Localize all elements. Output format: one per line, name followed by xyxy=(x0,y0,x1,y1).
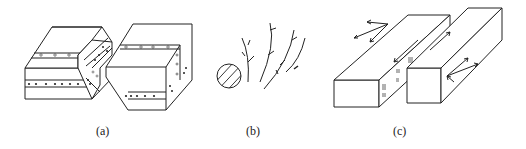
panel-b-label: (b) xyxy=(246,124,260,139)
panel-c-label: (c) xyxy=(393,124,406,139)
panel-c: (c) xyxy=(330,0,526,149)
panel-c-drawing xyxy=(330,0,526,149)
panel-a-label: (a) xyxy=(96,124,109,139)
panel-b: (b) xyxy=(190,0,340,149)
panel-a: (a) xyxy=(0,0,200,149)
panel-b-drawing xyxy=(190,0,340,149)
